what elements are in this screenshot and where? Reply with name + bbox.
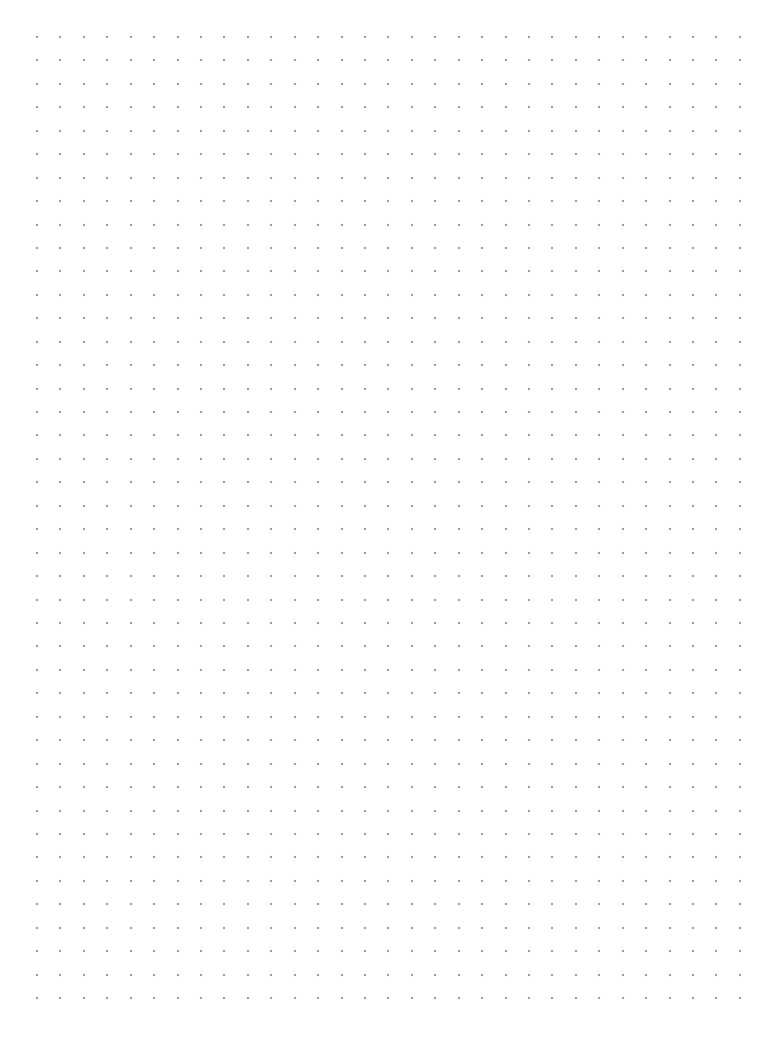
- grid-dot: [364, 83, 366, 85]
- grid-dot: [341, 364, 343, 366]
- grid-dot: [434, 974, 436, 976]
- grid-dot: [387, 599, 389, 601]
- grid-dot: [247, 786, 249, 788]
- grid-dot: [622, 434, 624, 436]
- grid-dot: [505, 200, 507, 202]
- grid-dot: [551, 645, 553, 647]
- grid-dot: [130, 177, 132, 179]
- grid-dot: [341, 130, 343, 132]
- grid-dot: [575, 692, 577, 694]
- grid-dot: [551, 575, 553, 577]
- grid-dot: [223, 599, 225, 601]
- grid-dot: [341, 247, 343, 249]
- grid-dot: [551, 786, 553, 788]
- grid-dot: [106, 364, 108, 366]
- grid-dot: [177, 599, 179, 601]
- grid-dot: [59, 59, 61, 61]
- grid-dot: [200, 974, 202, 976]
- grid-dot: [341, 622, 343, 624]
- grid-dot: [364, 36, 366, 38]
- grid-dot: [645, 997, 647, 999]
- grid-dot: [715, 528, 717, 530]
- grid-dot: [739, 505, 741, 507]
- grid-dot: [83, 528, 85, 530]
- grid-dot: [130, 763, 132, 765]
- grid-dot: [223, 575, 225, 577]
- grid-dot: [83, 833, 85, 835]
- grid-dot: [645, 317, 647, 319]
- grid-dot: [575, 270, 577, 272]
- grid-dot: [364, 270, 366, 272]
- grid-dot: [387, 716, 389, 718]
- grid-dot: [622, 247, 624, 249]
- grid-dot: [106, 974, 108, 976]
- grid-dot: [36, 974, 38, 976]
- grid-dot: [200, 481, 202, 483]
- grid-dot: [528, 317, 530, 319]
- grid-dot: [59, 247, 61, 249]
- grid-dot: [200, 997, 202, 999]
- grid-dot: [364, 692, 366, 694]
- grid-dot: [130, 481, 132, 483]
- grid-dot: [247, 880, 249, 882]
- grid-dot: [317, 106, 319, 108]
- grid-dot: [575, 59, 577, 61]
- grid-dot: [575, 36, 577, 38]
- grid-dot: [505, 59, 507, 61]
- grid-dot: [364, 200, 366, 202]
- grid-dot: [434, 200, 436, 202]
- grid-dot: [36, 833, 38, 835]
- grid-dot: [294, 247, 296, 249]
- grid-dot: [153, 130, 155, 132]
- grid-dot: [364, 177, 366, 179]
- grid-dot: [739, 458, 741, 460]
- grid-dot: [645, 716, 647, 718]
- grid-dot: [364, 763, 366, 765]
- grid-dot: [223, 59, 225, 61]
- grid-dot: [622, 411, 624, 413]
- grid-dot: [481, 645, 483, 647]
- grid-dot: [645, 83, 647, 85]
- grid-dot: [481, 317, 483, 319]
- grid-dot: [551, 177, 553, 179]
- grid-dot: [458, 481, 460, 483]
- grid-dot: [317, 247, 319, 249]
- grid-dot: [294, 505, 296, 507]
- grid-dot: [36, 810, 38, 812]
- grid-dot: [715, 458, 717, 460]
- grid-dot: [270, 481, 272, 483]
- grid-dot: [177, 83, 179, 85]
- grid-dot: [153, 270, 155, 272]
- grid-dot: [715, 270, 717, 272]
- grid-dot: [59, 505, 61, 507]
- grid-dot: [481, 739, 483, 741]
- grid-dot: [83, 552, 85, 554]
- grid-dot: [481, 36, 483, 38]
- grid-dot: [645, 669, 647, 671]
- grid-dot: [106, 599, 108, 601]
- grid-dot: [364, 481, 366, 483]
- grid-dot: [317, 83, 319, 85]
- grid-dot: [317, 880, 319, 882]
- grid-dot: [622, 856, 624, 858]
- grid-dot: [364, 645, 366, 647]
- grid-dot: [83, 974, 85, 976]
- grid-dot: [153, 716, 155, 718]
- grid-dot: [669, 669, 671, 671]
- grid-dot: [294, 341, 296, 343]
- grid-dot: [528, 411, 530, 413]
- grid-dot: [177, 317, 179, 319]
- grid-dot: [177, 950, 179, 952]
- grid-dot: [669, 411, 671, 413]
- grid-dot: [364, 927, 366, 929]
- grid-dot: [270, 810, 272, 812]
- grid-dot: [59, 294, 61, 296]
- grid-dot: [106, 833, 108, 835]
- grid-dot: [247, 294, 249, 296]
- grid-dot: [528, 810, 530, 812]
- grid-dot: [387, 622, 389, 624]
- grid-dot: [411, 59, 413, 61]
- grid-dot: [481, 247, 483, 249]
- grid-dot: [247, 903, 249, 905]
- grid-dot: [739, 317, 741, 319]
